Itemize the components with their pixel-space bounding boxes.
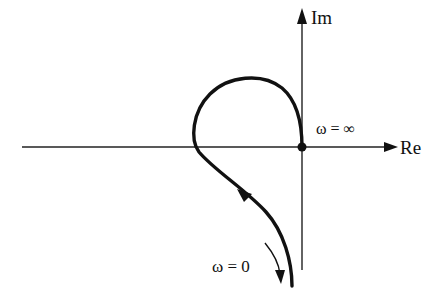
imaginary-axis-label: Im (311, 7, 332, 28)
imaginary-axis-arrow-icon (297, 8, 307, 24)
nyquist-diagram: Im Re ω = ∞ ω = 0 (0, 0, 430, 302)
origin-point (298, 143, 307, 152)
omega-infinity-label: ω = ∞ (316, 120, 355, 137)
nyquist-curve (194, 78, 302, 286)
omega-zero-arrowhead-icon (275, 270, 285, 284)
real-axis-arrow-icon (384, 142, 398, 152)
real-axis (22, 142, 398, 152)
omega-zero-label: ω = 0 (212, 257, 250, 276)
omega-zero-direction-arrow (265, 243, 285, 284)
real-axis-label: Re (400, 137, 421, 158)
